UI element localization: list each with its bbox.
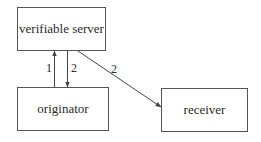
- diagram-canvas: verifiable server originator receiver 1 …: [0, 0, 261, 142]
- edge-originator-to-server: 1: [46, 51, 55, 87]
- node-originator: originator: [18, 88, 109, 131]
- node-label: verifiable server: [19, 21, 104, 36]
- node-receiver: receiver: [162, 89, 248, 132]
- edge-label: 2: [71, 61, 77, 75]
- edge-label: 2: [111, 62, 117, 76]
- edge-server-to-originator: 2: [68, 51, 78, 87]
- node-label: originator: [37, 101, 89, 116]
- edge-label: 1: [46, 61, 52, 75]
- node-label: receiver: [184, 102, 227, 117]
- node-verifiable-server: verifiable server: [18, 8, 106, 51]
